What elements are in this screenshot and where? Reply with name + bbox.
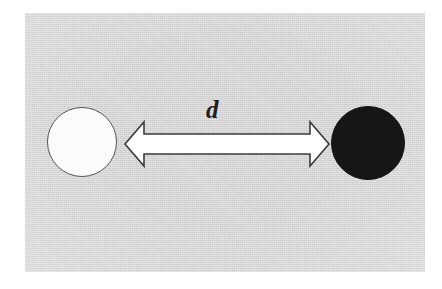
double-headed-arrow <box>120 116 334 172</box>
double-headed-arrow-outline <box>125 122 329 166</box>
black-sphere <box>331 106 405 180</box>
distance-label: d <box>206 97 219 122</box>
white-sphere <box>47 107 117 177</box>
figure-root: d <box>0 0 442 289</box>
